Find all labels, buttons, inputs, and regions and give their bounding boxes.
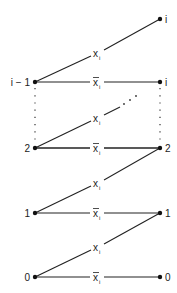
label-xbar-i-1: x i [93, 208, 100, 221]
label-x-i-0: x i [93, 242, 100, 255]
svg-text:x: x [93, 77, 98, 88]
svg-text:x: x [93, 143, 98, 154]
label-xbar-i-top: x i [93, 77, 100, 90]
diagram-canvas: x i x i x i x i x i x i x i x i i − 1 2 [0, 0, 177, 293]
svg-text:x: x [93, 178, 98, 189]
label-x-i-top: x i [93, 48, 100, 61]
label-x-i-1: x i [93, 178, 100, 191]
left-node-0: 0 [24, 272, 37, 283]
right-node-i-top: i [158, 14, 167, 25]
right-node-0: 0 [158, 272, 171, 283]
svg-text:i: i [165, 77, 167, 88]
ellipsis-dots [123, 95, 137, 105]
label-x-i-2: x i [93, 113, 100, 126]
svg-text:x: x [93, 272, 98, 283]
svg-text:2: 2 [24, 143, 30, 154]
label-xbar-i-0: x i [93, 272, 100, 285]
svg-text:i: i [99, 215, 100, 221]
label-xbar-i-2: x i [93, 143, 100, 156]
svg-text:i: i [99, 120, 100, 126]
svg-text:i: i [99, 279, 100, 285]
right-node-1: 1 [158, 208, 171, 219]
svg-text:1: 1 [165, 208, 171, 219]
right-node-i: i [158, 77, 167, 88]
svg-text:i: i [99, 84, 100, 90]
left-node-2: 2 [24, 143, 37, 154]
svg-text:i: i [165, 14, 167, 25]
svg-text:x: x [93, 48, 98, 59]
edge-2-to-ellipsis [35, 107, 120, 148]
svg-text:1: 1 [24, 208, 30, 219]
right-node-2: 2 [158, 143, 171, 154]
svg-text:x: x [93, 113, 98, 124]
svg-text:i: i [99, 55, 100, 61]
svg-text:i: i [99, 249, 100, 255]
svg-text:2: 2 [165, 143, 171, 154]
left-node-1: 1 [24, 208, 37, 219]
svg-text:i: i [99, 150, 100, 156]
svg-text:0: 0 [165, 272, 171, 283]
svg-text:i: i [99, 185, 100, 191]
svg-text:0: 0 [24, 272, 30, 283]
svg-text:x: x [93, 208, 98, 219]
svg-text:i − 1: i − 1 [11, 77, 31, 88]
left-node-i-minus-1: i − 1 [11, 77, 37, 88]
svg-text:x: x [93, 242, 98, 253]
